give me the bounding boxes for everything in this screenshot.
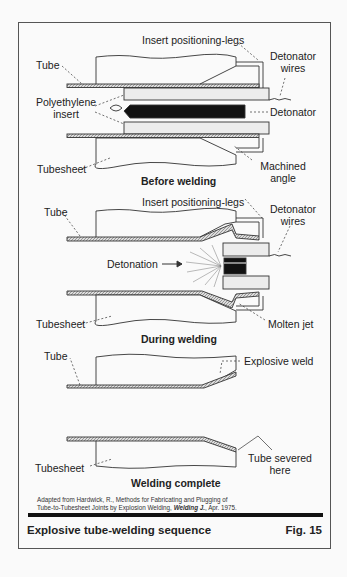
credit-journal: Welding J. [174, 504, 205, 511]
label-severed-a: Tube severed [248, 452, 312, 464]
stage3-complete-drawing [67, 436, 272, 468]
diagram-drawing [0, 0, 347, 577]
divider-rule [28, 513, 323, 517]
label-tubesheet-1: Tubesheet [37, 163, 86, 175]
label-det-wires-1a: Detonator [268, 50, 318, 62]
label-tube-3: Tube [44, 350, 68, 362]
label-insert-legs-1: Insert positioning-legs [142, 34, 244, 46]
label-det-wires-1b: wires [268, 62, 318, 74]
label-machined-1a: Machined [258, 160, 308, 172]
label-det-wires-2a: Detonator [268, 203, 318, 215]
label-detonator-1: Detonator [270, 106, 316, 118]
label-tubesheet-3: Tubesheet [35, 462, 84, 474]
label-explosive-weld: Explosive weld [244, 355, 313, 367]
source-credit: Adapted from Hardwick, R., Methods for F… [37, 496, 237, 512]
label-insert-legs-2: Insert positioning-legs [142, 196, 244, 208]
figure-title: Explosive tube-welding sequence [27, 524, 211, 536]
stage2-drawing [62, 199, 291, 326]
label-poly-1a: Polyethylene [33, 96, 99, 108]
caption-welding-complete: Welding complete [131, 477, 221, 489]
label-tube-2: Tube [44, 206, 68, 218]
label-detonation: Detonation [107, 258, 158, 270]
credit-line-1: Adapted from Hardwick, R., Methods for F… [37, 496, 237, 504]
label-det-wires-2b: wires [268, 215, 318, 227]
label-severed-b: here [248, 464, 312, 476]
credit-line-2: Tube-to-Tubesheet Joints by Explosion We… [37, 504, 237, 512]
label-machined-1b: angle [258, 172, 308, 184]
label-poly-1b: insert [33, 108, 99, 120]
figure-number: Fig. 15 [286, 524, 322, 536]
caption-before-welding: Before welding [141, 175, 216, 187]
label-tube-1: Tube [36, 59, 60, 71]
caption-during-welding: During welding [141, 333, 217, 345]
label-molten-jet: Molten jet [268, 318, 314, 330]
stage3-weld-drawing [67, 354, 240, 388]
label-tubesheet-2: Tubesheet [36, 318, 85, 330]
